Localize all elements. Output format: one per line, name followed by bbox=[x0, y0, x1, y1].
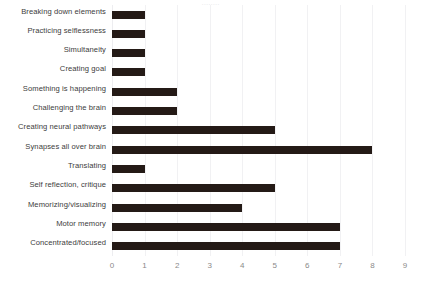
bar-row bbox=[112, 5, 405, 24]
bar-row bbox=[112, 140, 405, 159]
x-tick-6: 6 bbox=[297, 260, 317, 272]
x-tick-0: 0 bbox=[102, 260, 122, 272]
category-label: Breaking down elements bbox=[0, 7, 106, 17]
bar-series bbox=[112, 5, 405, 256]
bar bbox=[112, 68, 145, 76]
bar-row bbox=[112, 24, 405, 43]
bar-row bbox=[112, 237, 405, 256]
bar bbox=[112, 107, 177, 115]
bar bbox=[112, 242, 340, 250]
category-label: Simultaneity bbox=[0, 45, 106, 55]
gridline-9 bbox=[405, 5, 406, 256]
x-tick-9: 9 bbox=[395, 260, 415, 272]
bar bbox=[112, 49, 145, 57]
x-axis-tick-labels: 0123456789 bbox=[112, 260, 405, 274]
bar-row bbox=[112, 102, 405, 121]
category-axis-labels: Breaking down elementsPracticing selfles… bbox=[0, 5, 106, 256]
bar bbox=[112, 204, 242, 212]
bar bbox=[112, 184, 275, 192]
category-label: Self reflection, critique bbox=[0, 180, 106, 190]
x-tick-2: 2 bbox=[167, 260, 187, 272]
bar-chart: ........ Breaking down elementsPracticin… bbox=[0, 0, 421, 286]
bar bbox=[112, 30, 145, 38]
category-label: Synapses all over brain bbox=[0, 142, 106, 152]
bar-row bbox=[112, 159, 405, 178]
bar-row bbox=[112, 217, 405, 236]
category-label: Concentrated/focused bbox=[0, 238, 106, 248]
bar bbox=[112, 146, 372, 154]
bar bbox=[112, 88, 177, 96]
bar bbox=[112, 223, 340, 231]
category-label: Something is happening bbox=[0, 84, 106, 94]
x-tick-4: 4 bbox=[232, 260, 252, 272]
bar-row bbox=[112, 179, 405, 198]
x-tick-5: 5 bbox=[265, 260, 285, 272]
category-label: Creating goal bbox=[0, 64, 106, 74]
bar-row bbox=[112, 121, 405, 140]
category-label: Creating neural pathways bbox=[0, 122, 106, 132]
category-label: Translating bbox=[0, 161, 106, 171]
category-label: Practicing selflessness bbox=[0, 26, 106, 36]
category-label: Memorizing/visualizing bbox=[0, 200, 106, 210]
bar bbox=[112, 126, 275, 134]
bar-row bbox=[112, 63, 405, 82]
x-tick-8: 8 bbox=[362, 260, 382, 272]
bar bbox=[112, 11, 145, 19]
bar bbox=[112, 165, 145, 173]
bar-row bbox=[112, 82, 405, 101]
plot-area bbox=[112, 5, 405, 256]
category-label: Challenging the brain bbox=[0, 103, 106, 113]
bar-row bbox=[112, 198, 405, 217]
x-tick-1: 1 bbox=[135, 260, 155, 272]
category-label: Motor memory bbox=[0, 219, 106, 229]
bar-row bbox=[112, 44, 405, 63]
x-tick-7: 7 bbox=[330, 260, 350, 272]
x-tick-3: 3 bbox=[200, 260, 220, 272]
